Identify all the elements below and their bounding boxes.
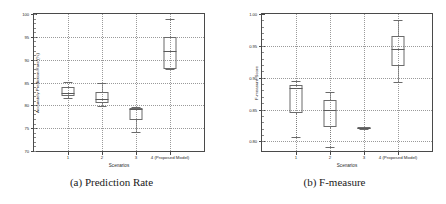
box-iqr: [164, 37, 177, 69]
subfigure-f-measure: F-measure Score Scenarios 0.800.850.900.…: [223, 0, 446, 204]
box-iqr: [392, 36, 405, 66]
axes-frame-b: F-measure Score Scenarios 0.800.850.900.…: [261, 13, 433, 152]
x-axis-tick-label: 3: [363, 155, 365, 160]
y-axis-tick-label: 0.80: [249, 139, 257, 144]
y-axis-minor-tick: [262, 97, 264, 98]
boxplot-1: [285, 14, 307, 151]
boxplot-4: [159, 14, 181, 151]
y-axis-minor-tick: [34, 41, 36, 42]
y-axis-minor-tick: [34, 69, 36, 70]
y-axis-minor-tick: [34, 92, 36, 93]
whisker-cap-lower: [64, 98, 73, 99]
y-axis-tick-label: 1.00: [249, 12, 257, 17]
y-axis-minor-tick: [34, 51, 36, 52]
whisker-lower: [330, 127, 331, 147]
y-axis-minor-tick: [34, 19, 36, 20]
whisker-cap-lower: [360, 129, 369, 130]
y-axis-minor-tick: [262, 65, 264, 66]
whisker-cap-upper: [292, 81, 301, 82]
box-iqr: [290, 85, 303, 112]
y-axis-minor-tick: [34, 64, 36, 65]
y-axis-minor-tick: [34, 37, 36, 38]
y-axis-minor-tick: [262, 141, 264, 142]
y-axis-minor-tick: [34, 14, 36, 15]
boxplot-2: [319, 14, 341, 151]
y-axis-minor-tick: [34, 110, 36, 111]
y-axis-minor-tick: [262, 129, 264, 130]
x-axis-tick-label: 2: [329, 155, 331, 160]
y-axis-minor-tick: [34, 87, 36, 88]
y-axis-tick-label: 90: [25, 57, 29, 62]
y-axis-minor-tick: [34, 142, 36, 143]
y-axis-minor-tick: [34, 114, 36, 115]
whisker-cap-upper: [394, 20, 403, 21]
y-axis-minor-tick: [34, 151, 36, 152]
median-line: [290, 88, 303, 89]
figure-row: Accurately Prediction Rate (%) Scenarios…: [0, 0, 446, 204]
y-axis-minor-tick: [262, 20, 264, 21]
box-iqr: [324, 100, 337, 127]
x-axis-tick-label: 1: [295, 155, 297, 160]
y-axis-tick-label: 100: [22, 12, 29, 17]
box-iqr: [96, 92, 109, 103]
y-axis-minor-tick: [34, 96, 36, 97]
median-line: [358, 128, 371, 129]
y-axis-minor-tick: [262, 116, 264, 117]
boxplot-3: [353, 14, 375, 151]
y-axis-minor-tick: [262, 39, 264, 40]
subfigure-caption-a: (a) Prediction Rate: [0, 176, 223, 188]
subfigure-prediction-rate: Accurately Prediction Rate (%) Scenarios…: [0, 0, 223, 204]
x-axis-title-a: Scenarios: [109, 163, 129, 168]
y-axis-minor-tick: [34, 83, 36, 84]
whisker-upper: [330, 92, 331, 100]
y-axis-minor-tick: [262, 90, 264, 91]
y-axis-minor-tick: [262, 27, 264, 28]
boxplot-1: [57, 14, 79, 151]
y-axis-minor-tick: [262, 110, 264, 111]
y-axis-minor-tick: [34, 137, 36, 138]
y-axis-minor-tick: [34, 28, 36, 29]
whisker-cap-upper: [98, 83, 107, 84]
y-axis-minor-tick: [262, 84, 264, 85]
y-axis-tick-inner: [262, 14, 265, 15]
y-axis-minor-tick: [34, 78, 36, 79]
boxplot-2: [91, 14, 113, 151]
whisker-cap-lower: [394, 82, 403, 83]
y-axis-minor-tick: [34, 119, 36, 120]
x-axis-tick-label: 1: [67, 155, 69, 160]
whisker-upper: [170, 19, 171, 36]
median-line: [324, 110, 337, 111]
whisker-cap-upper: [166, 19, 175, 20]
y-axis-minor-tick: [34, 55, 36, 56]
y-axis-minor-tick: [262, 52, 264, 53]
whisker-cap-lower: [292, 137, 301, 138]
y-axis-minor-tick: [262, 59, 264, 60]
x-axis-title-b: Scenarios: [337, 163, 357, 168]
median-line: [62, 93, 75, 94]
y-axis-minor-tick: [34, 124, 36, 125]
y-axis-minor-tick: [262, 78, 264, 79]
whisker-upper: [102, 83, 103, 92]
y-axis-minor-tick: [34, 23, 36, 24]
whisker-cap-upper: [64, 82, 73, 83]
y-axis-minor-tick: [34, 146, 36, 147]
y-axis-title-b: F-measure Score: [254, 66, 259, 100]
median-line: [164, 51, 177, 52]
y-axis-tick-label: 80: [25, 103, 29, 108]
y-axis-tick-label: 0.85: [249, 107, 257, 112]
y-axis-minor-tick: [34, 101, 36, 102]
y-axis-minor-tick: [262, 135, 264, 136]
median-line: [96, 99, 109, 100]
whisker-cap-upper: [326, 92, 335, 93]
y-axis-tick-label: 75: [25, 126, 29, 131]
whisker-lower: [136, 120, 137, 132]
y-axis-minor-tick: [262, 46, 264, 47]
plot-area-b: F-measure Score Scenarios 0.800.850.900.…: [223, 0, 446, 172]
y-axis-minor-tick: [34, 46, 36, 47]
x-axis-tick-label: 3: [135, 155, 137, 160]
axes-frame-a: Accurately Prediction Rate (%) Scenarios…: [33, 13, 205, 152]
x-axis-tick-label: 4 (Proposed Model): [379, 155, 418, 160]
plot-area-a: Accurately Prediction Rate (%) Scenarios…: [0, 0, 223, 172]
y-axis-minor-tick: [262, 103, 264, 104]
y-axis-tick-label: 95: [25, 34, 29, 39]
